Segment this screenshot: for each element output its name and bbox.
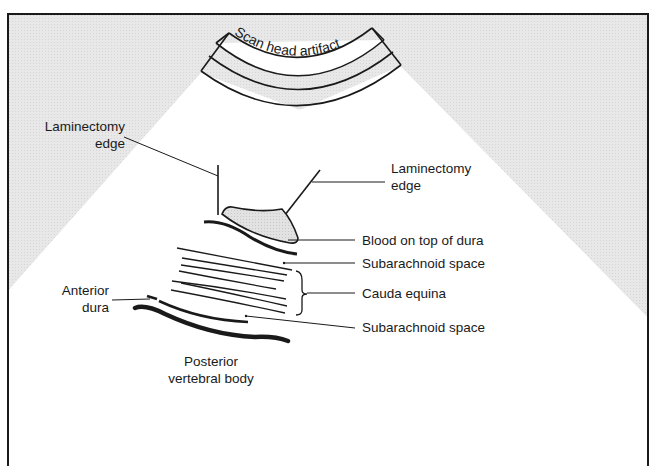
label-laminectomy-edge-right: Laminectomy edge xyxy=(391,160,471,194)
label-posterior-vertebral-body: Posterior vertebral body xyxy=(156,353,266,387)
label-blood-on-dura: Blood on top of dura xyxy=(362,232,484,249)
label-laminectomy-edge-left: Laminectomy edge xyxy=(27,118,125,152)
label-subarachnoid-space-upper: Subarachnoid space xyxy=(362,255,485,272)
label-subarachnoid-space-lower: Subarachnoid space xyxy=(362,319,485,336)
ultrasound-diagram: Scan head artifact xyxy=(0,0,654,466)
label-anterior-dura: Anterior dura xyxy=(40,282,109,316)
label-cauda-equina: Cauda equina xyxy=(362,285,446,302)
diagram-canvas: Scan head artifact xyxy=(0,0,654,466)
